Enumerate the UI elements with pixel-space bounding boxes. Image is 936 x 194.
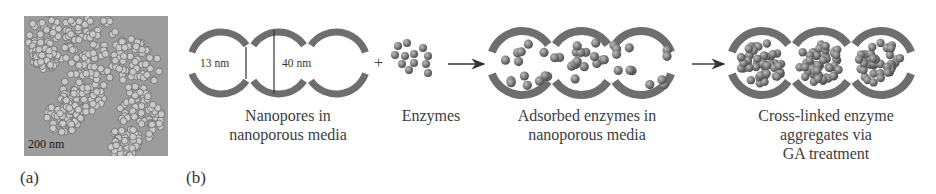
- caption-line: Cross-linked enzyme: [728, 106, 924, 125]
- caption-nanopores: Nanopores in nanoporous media: [200, 106, 376, 144]
- nanopore-structure-crosslinked: [732, 31, 911, 95]
- process-diagram: [0, 0, 936, 194]
- nanopore-structure-adsorbed: [492, 31, 672, 95]
- caption-line: GA treatment: [728, 144, 924, 163]
- caption-crosslinked: Cross-linked enzyme aggregates via GA tr…: [728, 106, 924, 163]
- pore-dimension-label: 40 nm: [282, 57, 311, 69]
- free-enzymes-cluster: [391, 39, 432, 77]
- caption-line: nanoporous media: [200, 125, 376, 144]
- caption-line: Nanopores in: [200, 106, 376, 125]
- neck-dimension-label: 13 nm: [200, 57, 229, 69]
- caption-line: nanoporous media: [492, 125, 682, 144]
- caption-line: Adsorbed enzymes in: [492, 106, 682, 125]
- caption-line: aggregates via: [728, 125, 924, 144]
- caption-line: Enzymes: [386, 106, 476, 125]
- caption-enzymes: Enzymes: [386, 106, 476, 125]
- caption-adsorbed: Adsorbed enzymes in nanoporous media: [492, 106, 682, 144]
- plus-sign: +: [374, 54, 383, 72]
